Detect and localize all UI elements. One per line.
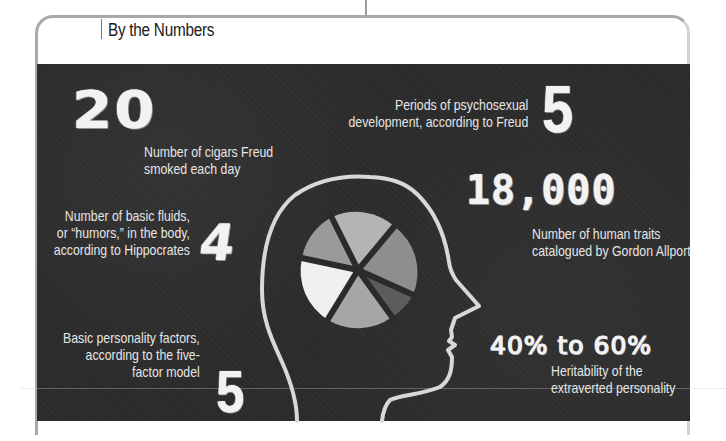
fact-traits-number: 18,000: [466, 170, 617, 210]
fact-humors-number: 4: [196, 218, 238, 268]
fact-traits-caption: Number of human traits catalogued by Gor…: [532, 225, 691, 259]
fact-cigars-number: 20: [72, 84, 157, 136]
fact-factors-number: 5: [216, 362, 244, 422]
fact-psychosexual-number: 5: [542, 76, 573, 142]
fact-psychosexual-caption: Periods of psychosexual development, acc…: [348, 96, 528, 130]
fact-humors-caption: Number of basic fluids, or “humors,” in …: [54, 207, 190, 258]
fact-heritability-caption: Heritability of the extraverted personal…: [551, 362, 675, 396]
fact-factors-caption: Basic personality factors, according to …: [63, 329, 200, 380]
fact-cigars-caption: Number of cigars Freud smoked each day: [144, 143, 273, 177]
pie-chart-icon: [297, 212, 418, 328]
fact-heritability-number: 40% to 60%: [490, 333, 652, 358]
